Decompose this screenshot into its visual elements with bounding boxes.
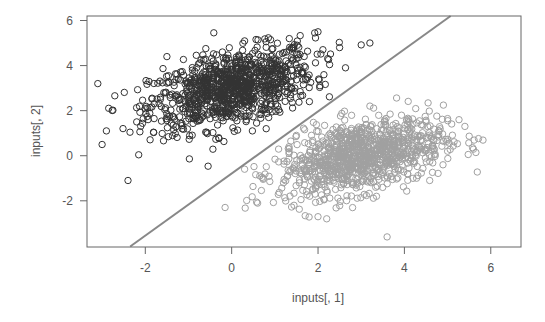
svg-text:2: 2 <box>315 261 322 275</box>
svg-text:0: 0 <box>228 261 235 275</box>
svg-text:-2: -2 <box>62 194 73 208</box>
x-axis-title: inputs[, 1] <box>292 291 344 305</box>
svg-text:6: 6 <box>487 261 494 275</box>
svg-text:0: 0 <box>66 149 73 163</box>
y-axis-title: inputs[, 2] <box>29 105 43 157</box>
svg-text:-2: -2 <box>140 261 151 275</box>
svg-text:6: 6 <box>66 14 73 28</box>
svg-text:4: 4 <box>66 59 73 73</box>
scatter-chart: -2 0 2 4 6 -2 0 2 4 6 inputs[, 1] inputs… <box>0 0 545 322</box>
svg-text:4: 4 <box>401 261 408 275</box>
svg-text:2: 2 <box>66 104 73 118</box>
